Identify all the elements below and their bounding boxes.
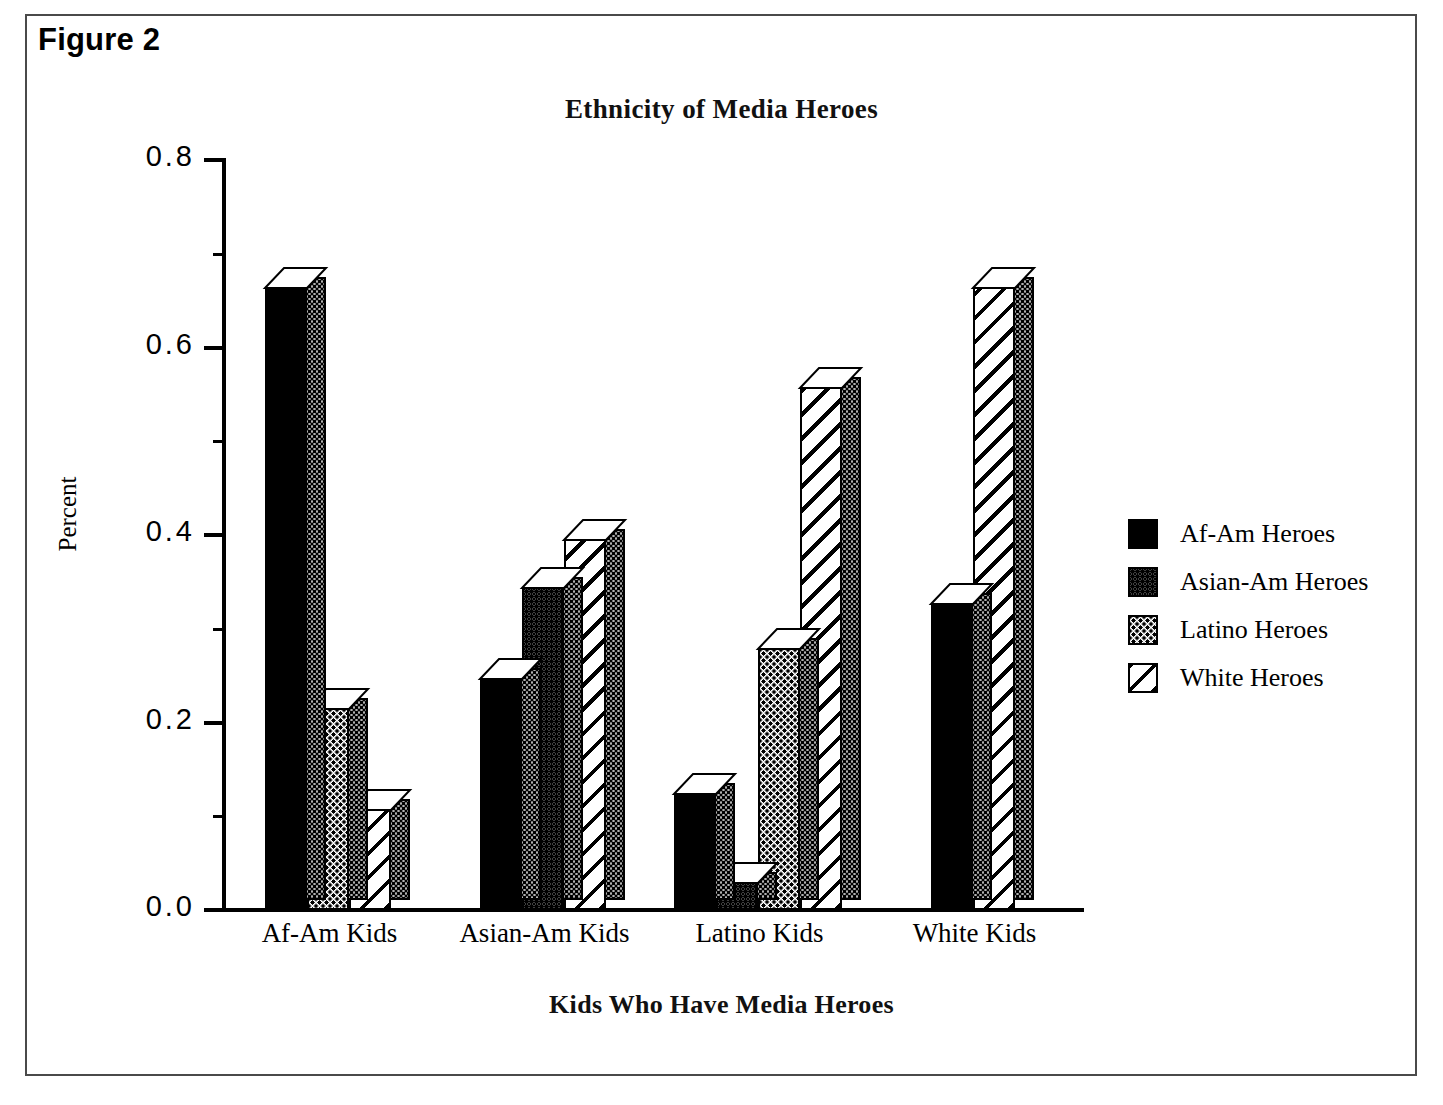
bar-top-face bbox=[564, 520, 606, 539]
bar-side-face bbox=[800, 638, 819, 901]
legend-item: Af-Am Heroes bbox=[1128, 510, 1368, 558]
legend-label: Af-Am Heroes bbox=[1180, 519, 1335, 549]
y-axis-title: Percent bbox=[54, 434, 82, 594]
bar bbox=[265, 287, 307, 910]
y-tick-label: 0.4 bbox=[70, 515, 195, 548]
bar-front-face bbox=[480, 678, 522, 911]
bar-side-face bbox=[307, 277, 326, 900]
bar-side-face bbox=[564, 577, 583, 900]
bar-side-face bbox=[606, 529, 625, 900]
legend-label: Latino Heroes bbox=[1180, 615, 1328, 645]
bar-side-face bbox=[522, 668, 541, 901]
bar-top-face bbox=[265, 268, 307, 287]
bar-side-face bbox=[391, 799, 410, 900]
x-axis-title: Kids Who Have Media Heroes bbox=[0, 990, 1443, 1020]
legend-swatch-light-dots bbox=[1128, 615, 1158, 645]
legend-label: Asian-Am Heroes bbox=[1180, 567, 1368, 597]
figure-label: Figure 2 bbox=[38, 22, 160, 58]
x-tick-label: White Kids bbox=[845, 918, 1105, 949]
legend-swatch-dense-dots bbox=[1128, 567, 1158, 597]
legend-swatch-solid-black bbox=[1128, 519, 1158, 549]
bar bbox=[931, 603, 973, 911]
bar-front-face bbox=[265, 287, 307, 910]
bar bbox=[674, 793, 716, 910]
bar-top-face bbox=[480, 659, 522, 678]
bar-top-face bbox=[758, 629, 800, 648]
bar bbox=[480, 678, 522, 911]
bar-side-face bbox=[349, 698, 368, 900]
legend-swatch-diagonal-hatch bbox=[1128, 663, 1158, 693]
legend-item: Latino Heroes bbox=[1128, 606, 1368, 654]
y-tick-label: 0.2 bbox=[70, 703, 195, 736]
bar-top-face bbox=[674, 774, 716, 793]
bar-top-face bbox=[800, 368, 842, 387]
bar-top-face bbox=[522, 568, 564, 587]
bar-top-face bbox=[973, 268, 1015, 287]
bar-side-face bbox=[842, 377, 861, 900]
bar-top-face bbox=[931, 584, 973, 603]
legend-label: White Heroes bbox=[1180, 663, 1324, 693]
plot-area bbox=[222, 160, 1082, 910]
chart-legend: Af-Am HeroesAsian-Am HeroesLatino Heroes… bbox=[1128, 510, 1368, 702]
bar-front-face bbox=[931, 603, 973, 911]
legend-item: White Heroes bbox=[1128, 654, 1368, 702]
bar-front-face bbox=[674, 793, 716, 910]
bar-side-face bbox=[1015, 277, 1034, 900]
y-tick-label: 0.8 bbox=[70, 140, 195, 173]
legend-item: Asian-Am Heroes bbox=[1128, 558, 1368, 606]
y-tick-label: 0.6 bbox=[70, 328, 195, 361]
figure-root: Figure 2 Ethnicity of Media Heroes 0.00.… bbox=[0, 0, 1443, 1105]
bar-side-face bbox=[973, 593, 992, 901]
bar-side-face bbox=[716, 783, 735, 900]
chart-title: Ethnicity of Media Heroes bbox=[0, 94, 1443, 125]
y-tick-label: 0.0 bbox=[70, 890, 195, 923]
